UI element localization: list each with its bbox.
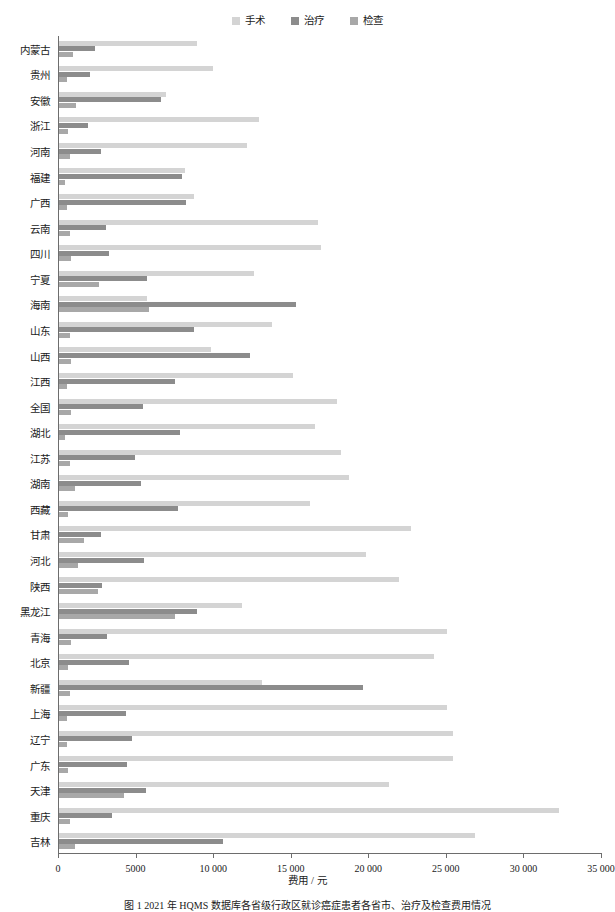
bar-检查[interactable] [59,129,68,134]
bar-手术[interactable] [59,117,259,122]
bar-治疗[interactable] [59,788,146,793]
bar-手术[interactable] [59,577,399,582]
bar-手术[interactable] [59,399,337,404]
bar-手术[interactable] [59,629,447,634]
bar-治疗[interactable] [59,813,112,818]
bar-治疗[interactable] [59,506,178,511]
bar-治疗[interactable] [59,711,126,716]
bar-手术[interactable] [59,41,197,46]
bar-治疗[interactable] [59,839,223,844]
bar-手术[interactable] [59,220,318,225]
bar-手术[interactable] [59,654,434,659]
bar-治疗[interactable] [59,660,129,665]
bar-检查[interactable] [59,614,175,619]
bar-治疗[interactable] [59,123,88,128]
bar-治疗[interactable] [59,481,141,486]
bar-手术[interactable] [59,424,315,429]
bar-手术[interactable] [59,168,185,173]
bar-手术[interactable] [59,782,389,787]
bar-检查[interactable] [59,512,68,517]
bar-检查[interactable] [59,665,68,670]
bar-手术[interactable] [59,603,242,608]
bar-检查[interactable] [59,256,71,261]
bar-检查[interactable] [59,486,75,491]
bar-检查[interactable] [59,180,65,185]
bar-治疗[interactable] [59,149,101,154]
bar-治疗[interactable] [59,379,175,384]
bar-检查[interactable] [59,359,71,364]
bar-治疗[interactable] [59,174,182,179]
bar-治疗[interactable] [59,46,95,51]
bar-治疗[interactable] [59,685,363,690]
bar-检查[interactable] [59,538,84,543]
bar-手术[interactable] [59,143,247,148]
bar-手术[interactable] [59,245,321,250]
bar-治疗[interactable] [59,736,132,741]
bar-治疗[interactable] [59,327,194,332]
bar-治疗[interactable] [59,251,109,256]
bar-检查[interactable] [59,691,70,696]
bar-检查[interactable] [59,844,75,849]
bar-手术[interactable] [59,808,559,813]
bar-治疗[interactable] [59,762,127,767]
bar-治疗[interactable] [59,430,180,435]
bar-治疗[interactable] [59,302,296,307]
bar-检查[interactable] [59,333,70,338]
bar-检查[interactable] [59,793,124,798]
bar-检查[interactable] [59,282,99,287]
legend-item-治疗[interactable]: 治疗 [291,16,324,27]
bar-检查[interactable] [59,640,71,645]
bar-治疗[interactable] [59,97,161,102]
bar-手术[interactable] [59,194,194,199]
bar-手术[interactable] [59,373,293,378]
bar-治疗[interactable] [59,353,250,358]
bar-检查[interactable] [59,103,76,108]
bar-检查[interactable] [59,231,70,236]
bar-检查[interactable] [59,768,68,773]
bar-治疗[interactable] [59,455,135,460]
bar-手术[interactable] [59,92,166,97]
bar-检查[interactable] [59,589,98,594]
bar-手术[interactable] [59,322,272,327]
bar-手术[interactable] [59,501,310,506]
bar-检查[interactable] [59,819,70,824]
bar-手术[interactable] [59,526,411,531]
legend-item-检查[interactable]: 检查 [350,16,383,27]
bar-手术[interactable] [59,833,475,838]
bar-检查[interactable] [59,742,67,747]
bar-检查[interactable] [59,154,70,159]
bar-检查[interactable] [59,435,65,440]
bar-手术[interactable] [59,756,453,761]
bar-治疗[interactable] [59,72,90,77]
bar-手术[interactable] [59,552,366,557]
bar-手术[interactable] [59,450,341,455]
bar-检查[interactable] [59,410,71,415]
bar-检查[interactable] [59,461,70,466]
bar-检查[interactable] [59,52,73,57]
bar-检查[interactable] [59,716,67,721]
bar-手术[interactable] [59,680,262,685]
bar-治疗[interactable] [59,634,107,639]
bar-手术[interactable] [59,475,349,480]
bar-检查[interactable] [59,205,67,210]
bar-检查[interactable] [59,77,67,82]
bar-手术[interactable] [59,705,447,710]
bar-手术[interactable] [59,731,453,736]
bar-治疗[interactable] [59,276,147,281]
bar-治疗[interactable] [59,558,144,563]
bar-检查[interactable] [59,307,149,312]
bar-手术[interactable] [59,296,147,301]
bar-手术[interactable] [59,347,211,352]
legend-item-手术[interactable]: 手术 [232,16,265,27]
bar-检查[interactable] [59,384,67,389]
bar-治疗[interactable] [59,583,102,588]
bar-治疗[interactable] [59,532,101,537]
bar-手术[interactable] [59,66,213,71]
bar-治疗[interactable] [59,200,186,205]
bar-检查[interactable] [59,563,78,568]
bar-手术[interactable] [59,271,254,276]
bar-治疗[interactable] [59,404,143,409]
y-axis-category-label: 重庆 [30,808,50,823]
bar-治疗[interactable] [59,225,106,230]
bar-治疗[interactable] [59,609,197,614]
